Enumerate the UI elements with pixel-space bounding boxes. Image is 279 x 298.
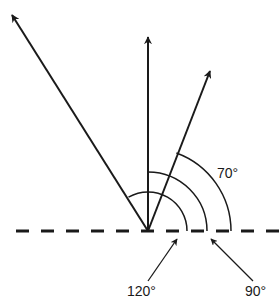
label-120-degrees: 120°	[127, 283, 156, 298]
pointer-arrow-120	[148, 239, 177, 281]
arc-120-degrees	[129, 192, 188, 231]
label-90-degrees: 90°	[245, 283, 266, 298]
arc-90-degrees	[148, 172, 207, 231]
label-70-degrees: 70°	[217, 165, 238, 181]
pointer-arrow-90	[211, 239, 253, 281]
vector-120-degrees	[12, 15, 148, 231]
angle-diagram: 70° 120° 90°	[0, 0, 279, 298]
